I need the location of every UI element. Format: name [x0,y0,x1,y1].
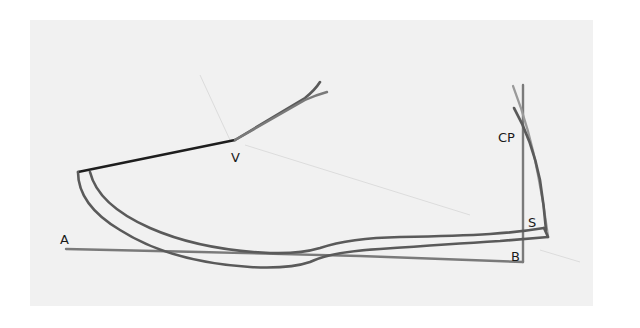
paper-sheet [30,20,593,306]
point-label-v: V [231,150,240,165]
pattern-diagram: A V CP S B [0,0,640,328]
point-label-a: A [60,232,69,247]
point-label-cp: CP [498,130,515,145]
point-label-b: B [511,249,520,264]
point-label-s: S [528,215,536,230]
